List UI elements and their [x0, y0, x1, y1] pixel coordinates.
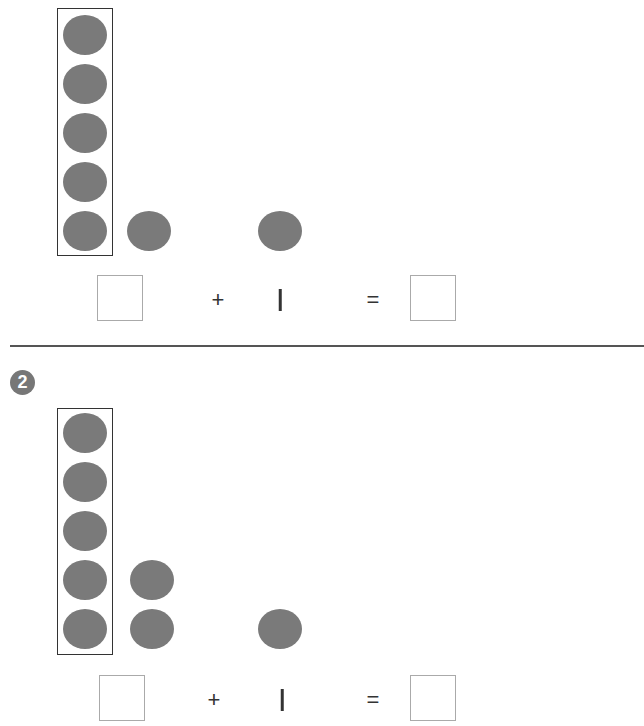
added-counter-dot: [258, 211, 302, 251]
addend-one: [281, 689, 284, 711]
extra-counter-dot: [130, 609, 174, 649]
section-divider: [10, 345, 644, 347]
counter-dot: [63, 609, 107, 649]
answer-box-result[interactable]: [410, 675, 456, 721]
answer-box-left[interactable]: [97, 275, 143, 321]
counter-dot: [63, 462, 107, 502]
added-counter-dot: [258, 609, 302, 649]
counter-dot: [63, 162, 107, 202]
equals-sign: =: [367, 689, 380, 711]
counter-dot: [63, 211, 107, 251]
counter-dot: [63, 64, 107, 104]
counter-dot: [63, 15, 107, 55]
counter-dot: [63, 560, 107, 600]
counter-dot: [63, 511, 107, 551]
addend-one: [279, 289, 282, 311]
extra-counter-dot: [130, 560, 174, 600]
plus-sign: +: [212, 289, 225, 311]
plus-sign: +: [208, 689, 221, 711]
answer-box-left[interactable]: [99, 675, 145, 721]
answer-box-result[interactable]: [410, 275, 456, 321]
counter-dot: [63, 113, 107, 153]
equals-sign: =: [367, 289, 380, 311]
problem-number-badge: 2: [10, 370, 35, 395]
extra-counter-dot: [127, 211, 171, 251]
counter-dot: [63, 413, 107, 453]
